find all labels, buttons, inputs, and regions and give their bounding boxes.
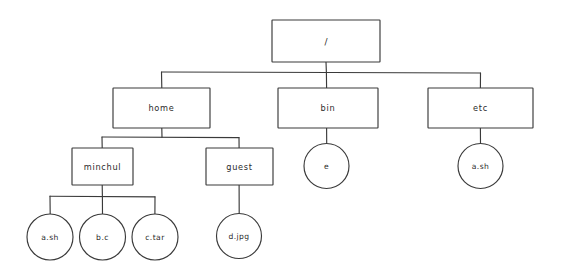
node-home: home [113, 88, 210, 128]
node-a-sh-etc: a.sh [458, 144, 503, 189]
node-minchul: minchul [72, 148, 133, 185]
b-c-node-label: b.c [96, 233, 109, 242]
node-d-jpg: d.jpg [217, 214, 262, 259]
c-tar-node-label: c.tar [145, 233, 165, 242]
filesystem-tree-diagram: / home bin etc minchul guest a.sh [0, 0, 563, 273]
etc-node-label: etc [473, 103, 488, 113]
node-b-c: b.c [80, 214, 126, 260]
edges-group [50, 62, 481, 215]
e-bin-node-label: e [324, 162, 329, 171]
a-sh-minchul-node-label: a.sh [41, 233, 59, 242]
node-guest: guest [206, 148, 273, 185]
node-etc: etc [428, 88, 533, 128]
edge-level1-bus [162, 72, 481, 73]
guest-node-label: guest [226, 162, 252, 172]
d-jpg-node-label: d.jpg [228, 232, 249, 241]
edge-home-children-bus [102, 137, 239, 138]
minchul-node-label: minchul [84, 162, 122, 172]
node-e-bin: e [304, 144, 349, 189]
node-c-tar: c.tar [132, 214, 178, 260]
node-a-sh-minchul: a.sh [27, 214, 73, 260]
a-sh-etc-node-label: a.sh [472, 162, 490, 171]
home-node-label: home [148, 103, 174, 113]
node-bin: bin [278, 88, 378, 128]
bin-node-label: bin [321, 103, 336, 113]
node-root: / [272, 20, 380, 62]
tree-svg-canvas: / home bin etc minchul guest a.sh [0, 0, 563, 273]
